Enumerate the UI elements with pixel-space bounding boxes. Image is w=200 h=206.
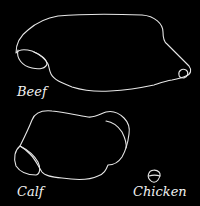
chicken-label: Chicken — [133, 185, 187, 198]
calf-outline — [15, 111, 130, 180]
chicken-outline — [148, 170, 160, 182]
outline-drawings — [0, 0, 200, 206]
beef-label: Beef — [17, 85, 47, 98]
calf-label: Calf — [17, 185, 44, 198]
specimen-comparison-figure: Beef Calf Chicken — [0, 0, 200, 206]
beef-outline — [16, 14, 191, 91]
